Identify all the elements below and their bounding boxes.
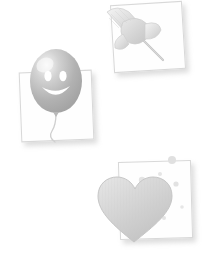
scene-title: Faded sticker cards collage bbox=[0, 0, 1, 1]
card-pushpin[interactable] bbox=[110, 1, 186, 73]
card-pushpin-label: Pushpin card bbox=[0, 0, 1, 1]
card-heart-label: Heart card bbox=[0, 0, 1, 1]
card-heart[interactable] bbox=[118, 160, 193, 240]
card-balloon[interactable] bbox=[19, 70, 95, 143]
card-balloon-label: Balloon card bbox=[0, 0, 1, 1]
scene-canvas: Faded sticker cards collage Balloon card… bbox=[0, 0, 215, 262]
